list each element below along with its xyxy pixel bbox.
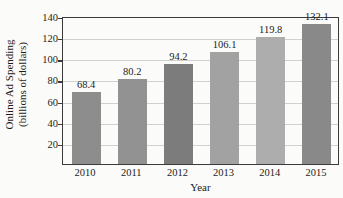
x-axis-tick-labels: 201020112012201320142015 — [62, 167, 339, 181]
bar-value-label: 68.4 — [77, 79, 95, 90]
y-axis-tick-label: 20 — [32, 138, 58, 149]
bar: 80.2 — [118, 79, 147, 164]
bar-series: 68.480.294.2106.1119.8132.1 — [63, 18, 338, 164]
y-axis-tick-label: 40 — [32, 117, 58, 128]
bar-value-label: 119.8 — [259, 24, 282, 35]
bar-chart: Online Ad Spending (billions of dollars)… — [0, 0, 343, 198]
x-axis-tick-label: 2012 — [167, 167, 188, 178]
y-axis-tick-label: 60 — [32, 96, 58, 107]
x-axis-title: Year — [62, 181, 339, 193]
y-axis-tick-label: 80 — [32, 75, 58, 86]
x-axis-tick-label: 2011 — [121, 167, 142, 178]
bar: 119.8 — [256, 37, 285, 164]
bar-value-label: 106.1 — [213, 39, 237, 50]
bar: 106.1 — [210, 52, 239, 164]
x-axis-tick-label: 2015 — [305, 167, 326, 178]
x-axis-tick-label: 2010 — [75, 167, 96, 178]
y-axis-tick-labels: 20406080100120140 — [30, 0, 58, 198]
bar: 94.2 — [164, 64, 193, 164]
y-axis-title-line1: Online Ad Spending — [4, 39, 16, 129]
bar-value-label: 94.2 — [169, 51, 187, 62]
bar: 132.1 — [302, 24, 331, 164]
x-axis-tick-label: 2014 — [259, 167, 280, 178]
bar-value-label: 80.2 — [123, 66, 141, 77]
x-axis-tick-label: 2013 — [213, 167, 234, 178]
y-axis-tick-label: 140 — [32, 12, 58, 23]
y-axis-tick-label: 120 — [32, 33, 58, 44]
y-axis-title: Online Ad Spending (billions of dollars) — [0, 0, 32, 168]
plot-area: 68.480.294.2106.1119.8132.1 — [62, 17, 339, 165]
bar: 68.4 — [72, 92, 101, 164]
y-axis-title-line2: (billions of dollars) — [16, 39, 29, 129]
y-axis-tick-label: 100 — [32, 54, 58, 65]
bar-value-label: 132.1 — [305, 11, 329, 22]
